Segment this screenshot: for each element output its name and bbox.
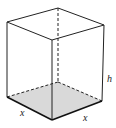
label-h: h [107, 73, 112, 84]
box-diagram: x x h [0, 0, 116, 128]
label-x-right: x [82, 112, 88, 123]
label-x-left: x [19, 107, 25, 118]
